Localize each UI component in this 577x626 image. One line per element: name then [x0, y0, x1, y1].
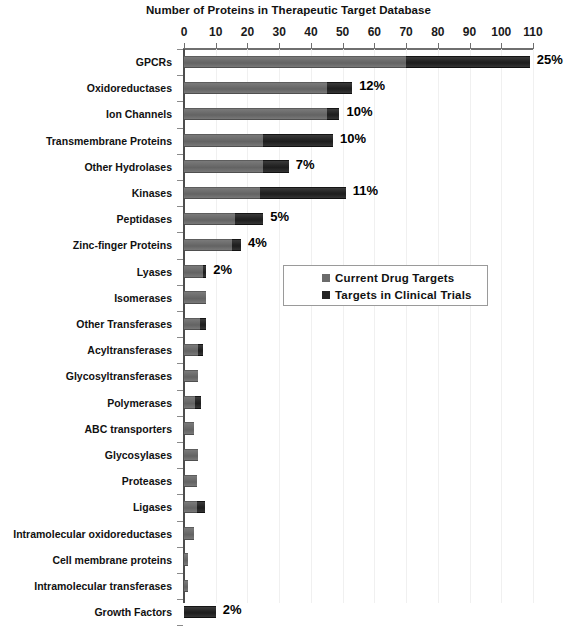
- bar-row: Ion Channels10%: [0, 101, 577, 127]
- category-label: Proteases: [0, 475, 172, 487]
- stacked-bar: [184, 82, 352, 95]
- stacked-bar: [184, 56, 530, 69]
- category-label: Peptidases: [0, 213, 172, 225]
- category-label: Transmembrane Proteins: [0, 135, 172, 147]
- bar-segment-targets-in-clinical-trials: [198, 344, 203, 357]
- category-label: GPCRs: [0, 56, 172, 68]
- bar-value-label: 25%: [537, 52, 563, 67]
- bar-row: Kinases11%: [0, 180, 577, 206]
- bar-segment-targets-in-clinical-trials: [203, 265, 206, 278]
- bar-segment-current-drug-targets: [184, 187, 260, 200]
- bar-segment-current-drug-targets: [184, 501, 197, 514]
- bar-row: Other Hydrolases7%: [0, 154, 577, 180]
- bar-segment-current-drug-targets: [184, 291, 206, 304]
- bar-segment-current-drug-targets: [184, 82, 327, 95]
- category-label: Intramolecular oxidoreductases: [0, 528, 172, 540]
- bar-segment-current-drug-targets: [184, 160, 263, 173]
- category-label: Glycosylases: [0, 449, 172, 461]
- category-label: Other Hydrolases: [0, 161, 172, 173]
- bar-row: Cell membrane proteins: [0, 547, 577, 573]
- bar-row: Peptidases5%: [0, 206, 577, 232]
- category-label: Acyltransferases: [0, 344, 172, 356]
- bar-segment-targets-in-clinical-trials: [195, 396, 201, 409]
- bar-segment-targets-in-clinical-trials: [235, 213, 264, 226]
- bar-segment-targets-in-clinical-trials: [260, 187, 346, 200]
- bar-row: Proteases: [0, 468, 577, 494]
- bar-segment-current-drug-targets: [184, 580, 188, 593]
- stacked-bar: [184, 553, 188, 566]
- x-tick-label: 110: [513, 25, 553, 39]
- bar-value-label: 2%: [223, 602, 242, 617]
- category-label: Other Transferases: [0, 318, 172, 330]
- bar-segment-targets-in-clinical-trials: [263, 134, 333, 147]
- bar-segment-targets-in-clinical-trials: [200, 318, 206, 331]
- stacked-bar: [184, 580, 188, 593]
- bar-row: Acyltransferases: [0, 337, 577, 363]
- category-label: Lyases: [0, 266, 172, 278]
- stacked-bar: [184, 501, 205, 514]
- category-label: Oxidoreductases: [0, 82, 172, 94]
- stacked-bar: [184, 606, 216, 619]
- bar-segment-current-drug-targets: [184, 265, 203, 278]
- legend-label-current-drug-targets: Current Drug Targets: [335, 272, 454, 284]
- category-label: Kinases: [0, 187, 172, 199]
- bar-row: Growth Factors2%: [0, 599, 577, 625]
- bar-segment-current-drug-targets: [184, 475, 197, 488]
- bar-segment-targets-in-clinical-trials: [197, 501, 205, 514]
- bar-segment-targets-in-clinical-trials: [263, 160, 288, 173]
- bar-segment-current-drug-targets: [184, 449, 198, 462]
- bar-row: ABC transporters: [0, 416, 577, 442]
- stacked-bar: [184, 370, 198, 383]
- stacked-bar: [184, 422, 194, 435]
- bar-row: Ligases: [0, 494, 577, 520]
- stacked-bar: [184, 475, 197, 488]
- bar-segment-current-drug-targets: [184, 213, 235, 226]
- bar-row: Other Transferases: [0, 311, 577, 337]
- bar-segment-current-drug-targets: [184, 239, 232, 252]
- category-label: Ligases: [0, 501, 172, 513]
- bar-segment-targets-in-clinical-trials: [327, 82, 352, 95]
- bar-segment-current-drug-targets: [184, 108, 327, 121]
- category-label: ABC transporters: [0, 423, 172, 435]
- stacked-bar: [184, 239, 241, 252]
- chart-legend: Current Drug Targets Targets in Clinical…: [283, 265, 488, 306]
- bar-value-label: 2%: [213, 262, 232, 277]
- category-label: Ion Channels: [0, 108, 172, 120]
- bar-row: Zinc-finger Proteins4%: [0, 232, 577, 258]
- stacked-bar: [184, 396, 201, 409]
- stacked-bar: [184, 213, 263, 226]
- bar-row: Intramolecular transferases: [0, 573, 577, 599]
- bar-segment-current-drug-targets: [184, 527, 194, 540]
- bar-segment-current-drug-targets: [184, 56, 406, 69]
- category-label: Zinc-finger Proteins: [0, 239, 172, 251]
- stacked-bar: [184, 187, 346, 200]
- bar-value-label: 10%: [346, 104, 372, 119]
- chart-title: Number of Proteins in Therapeutic Target…: [0, 4, 577, 16]
- bar-segment-current-drug-targets: [184, 134, 263, 147]
- category-label: Intramolecular transferases: [0, 580, 172, 592]
- category-label: Cell membrane proteins: [0, 554, 172, 566]
- stacked-bar: [184, 318, 206, 331]
- bar-value-label: 7%: [296, 157, 315, 172]
- legend-label-targets-in-clinical-trials: Targets in Clinical Trials: [335, 289, 472, 301]
- bar-segment-targets-in-clinical-trials: [327, 108, 340, 121]
- bar-row: Polymerases: [0, 390, 577, 416]
- bar-value-label: 4%: [248, 235, 267, 250]
- legend-item-targets-in-clinical-trials: Targets in Clinical Trials: [284, 286, 487, 303]
- bar-segment-current-drug-targets: [184, 422, 194, 435]
- legend-swatch-icon-current-drug-targets: [322, 274, 330, 282]
- bar-segment-targets-in-clinical-trials: [232, 239, 242, 252]
- category-label: Polymerases: [0, 397, 172, 409]
- bar-row: Oxidoreductases12%: [0, 75, 577, 101]
- bar-value-label: 11%: [353, 183, 378, 198]
- stacked-bar: [184, 265, 206, 278]
- bar-row: Glycosylases: [0, 442, 577, 468]
- stacked-bar: [184, 160, 289, 173]
- bar-segment-current-drug-targets: [184, 344, 198, 357]
- category-label: Glycosyltransferases: [0, 370, 172, 382]
- legend-swatch-icon-targets-in-clinical-trials: [322, 291, 330, 299]
- stacked-bar: [184, 108, 339, 121]
- stacked-bar: [184, 134, 333, 147]
- bar-row: GPCRs25%: [0, 49, 577, 75]
- category-label: Isomerases: [0, 292, 172, 304]
